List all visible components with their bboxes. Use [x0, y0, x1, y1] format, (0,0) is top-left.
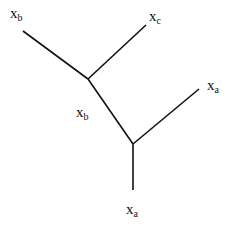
edge-internal-2-to-xa-right: [133, 89, 199, 144]
label-xa-right-sub: a: [215, 84, 219, 95]
label-xa-right: xa: [207, 78, 219, 93]
label-xc: xc: [149, 9, 161, 24]
label-xb-middle: xb: [76, 105, 89, 120]
label-xb-middle-base: x: [76, 104, 84, 120]
tree-diagram: [0, 0, 228, 226]
label-xa-bottom-base: x: [126, 201, 134, 217]
label-xb-top-sub: b: [18, 12, 23, 23]
edge-internal-1-to-internal-2: [88, 79, 133, 144]
label-xc-base: x: [149, 8, 157, 24]
edge-internal-1-to-xc: [88, 25, 146, 79]
label-xb-top: xb: [10, 6, 23, 21]
label-xc-sub: c: [157, 15, 161, 26]
edge-xb-top-to-internal-1: [23, 31, 88, 79]
label-xb-top-base: x: [10, 5, 18, 21]
label-xa-right-base: x: [207, 77, 215, 93]
label-xb-middle-sub: b: [84, 111, 89, 122]
label-xa-bottom-sub: a: [134, 208, 138, 219]
label-xa-bottom: xa: [126, 202, 138, 217]
